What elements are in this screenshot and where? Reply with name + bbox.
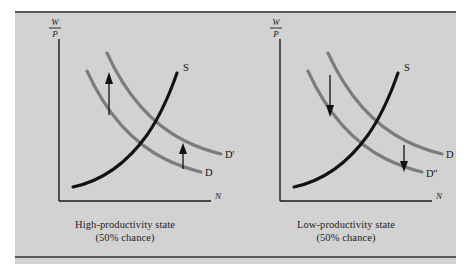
x-axis-label: N bbox=[435, 191, 443, 201]
demand-curve-D bbox=[87, 71, 201, 172]
figure-root: W P N S D' bbox=[0, 0, 471, 279]
caption-high-productivity: High-productivity state (50% chance) bbox=[15, 219, 235, 244]
chart-low-productivity: W P N S D D bbox=[236, 11, 456, 226]
shift-arrow-up-left bbox=[105, 72, 113, 115]
shift-arrow-down-left bbox=[326, 75, 334, 117]
y-axis-label: W P bbox=[270, 17, 282, 39]
chart-high-productivity: W P N S D' bbox=[15, 11, 235, 226]
caption-low-productivity: Low-productivity state (50% chance) bbox=[236, 219, 456, 244]
demand-curve-D-double-prime bbox=[308, 71, 422, 172]
caption-line-1: High-productivity state bbox=[75, 219, 175, 230]
demand-curve-label-D-double-prime: D'' bbox=[426, 168, 437, 179]
x-axis-label: N bbox=[214, 191, 222, 201]
supply-curve-label: S bbox=[183, 62, 189, 73]
y-axis-denominator: P bbox=[272, 29, 279, 39]
y-axis-numerator: W bbox=[51, 17, 60, 27]
caption-line-1: Low-productivity state bbox=[297, 219, 395, 230]
panel-high-productivity: W P N S D' bbox=[15, 11, 235, 264]
y-axis-label: W P bbox=[49, 17, 61, 39]
y-axis-denominator: P bbox=[51, 29, 58, 39]
demand-curve-label-D: D bbox=[205, 167, 213, 178]
y-axis-numerator: W bbox=[272, 17, 281, 27]
caption-line-2: (50% chance) bbox=[15, 232, 235, 245]
demand-curve-label-D-prime: D' bbox=[225, 149, 235, 160]
demand-curve-label-D: D bbox=[446, 149, 454, 160]
panel-low-productivity: W P N S D D bbox=[236, 11, 456, 264]
supply-curve-label: S bbox=[404, 62, 410, 73]
caption-line-2: (50% chance) bbox=[236, 232, 456, 245]
